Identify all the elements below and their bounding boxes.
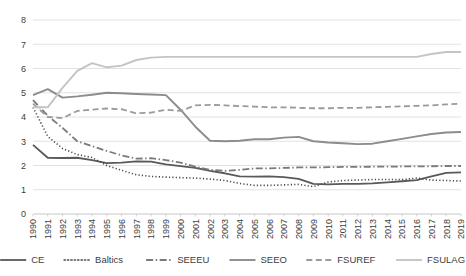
x-axis-tick-label: 2006 <box>265 219 275 239</box>
legend-label: FSULAG <box>427 254 465 265</box>
legend-item-fsulag[interactable]: FSULAG <box>396 254 465 265</box>
x-axis-tick-label: 1995 <box>102 219 112 239</box>
x-axis-tick-label: 2008 <box>294 219 304 239</box>
x-axis-tick-label: 2000 <box>176 219 186 239</box>
x-axis-tick-label: 2016 <box>412 219 422 239</box>
x-axis-tick-label: 2003 <box>220 219 230 239</box>
x-axis-tick-label: 2001 <box>191 219 201 239</box>
y-axis-tick-label: 4 <box>21 112 26 122</box>
x-axis-tick-label: 2004 <box>235 219 245 239</box>
y-axis-tick-label: 6 <box>21 64 26 74</box>
x-axis-tick-label: 2017 <box>427 219 437 239</box>
y-axis-tick-label: 8 <box>21 15 26 25</box>
x-axis-tick-label: 2012 <box>353 219 363 239</box>
x-axis-tick-label: 2011 <box>338 219 348 238</box>
series-line-fsuref <box>33 104 461 119</box>
series-line-ce <box>33 145 461 185</box>
legend-item-fsuref[interactable]: FSUREF <box>306 254 375 265</box>
y-axis-tick-label: 1 <box>21 185 26 195</box>
series-group <box>33 52 461 187</box>
y-axis-tick-label: 7 <box>21 40 26 50</box>
x-axis-tick-label: 1990 <box>28 219 38 239</box>
legend-item-seeo[interactable]: SEEO <box>229 254 286 265</box>
chart-legend: CEBalticsSEEEUSEEOFSUREFFSULAG <box>0 254 465 265</box>
legend-label: SEEEU <box>177 254 209 265</box>
x-axis-tick-label: 2005 <box>250 219 260 239</box>
x-axis-tick-label: 2002 <box>206 219 216 239</box>
x-axis-tick-label: 1994 <box>87 219 97 239</box>
x-axis-tick-label: 2018 <box>442 219 452 239</box>
legend-label: Baltics <box>95 254 123 265</box>
x-axis-tick-label: 1998 <box>146 219 156 239</box>
x-axis-tick-label: 2015 <box>397 219 407 239</box>
x-axis-tick-label: 1993 <box>73 219 83 239</box>
x-axis-tick-labels: 1990199119921993199419951996199719981999… <box>28 214 466 239</box>
line-chart: 012345678 199019911992199319941995199619… <box>0 0 466 276</box>
legend-item-baltics[interactable]: Baltics <box>64 254 123 265</box>
legend-item-seeeu[interactable]: SEEEU <box>146 254 209 265</box>
x-axis-tick-label: 2010 <box>324 219 334 239</box>
legend-item-ce[interactable]: CE <box>0 254 44 265</box>
x-axis-tick-label: 2019 <box>456 219 466 239</box>
x-axis-tick-label: 1991 <box>43 219 53 239</box>
x-axis-tick-label: 1999 <box>161 219 171 239</box>
x-axis-tick-label: 2013 <box>368 219 378 239</box>
y-axis-tick-label: 3 <box>21 137 26 147</box>
series-line-fsulag <box>33 52 461 107</box>
y-axis-tick-labels: 012345678 <box>21 15 26 219</box>
y-axis-tick-label: 0 <box>21 209 26 219</box>
x-axis-tick-label: 1992 <box>58 219 68 239</box>
y-axis-tick-label: 5 <box>21 88 26 98</box>
y-axis-tick-label: 2 <box>21 161 26 171</box>
chart-canvas: 012345678 199019911992199319941995199619… <box>0 0 466 276</box>
x-axis-tick-label: 1996 <box>117 219 127 239</box>
x-axis-tick-label: 1997 <box>132 219 142 239</box>
x-axis-tick-label: 2014 <box>383 219 393 239</box>
legend-label: SEEO <box>260 254 286 265</box>
x-axis-tick-label: 2009 <box>309 219 319 239</box>
x-axis-tick-label: 2007 <box>279 219 289 239</box>
legend-label: FSUREF <box>337 254 375 265</box>
legend-label: CE <box>31 254 44 265</box>
